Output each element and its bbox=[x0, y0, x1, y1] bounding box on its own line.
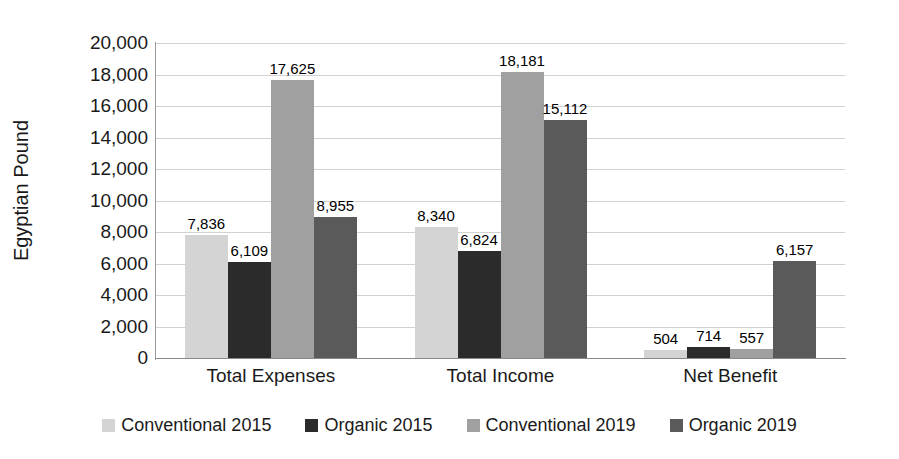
y-axis-tick-label: 6,000 bbox=[44, 254, 148, 273]
x-axis-category-labels: Total ExpensesTotal IncomeNet Benefit bbox=[156, 365, 845, 395]
y-axis-tick-label: 16,000 bbox=[44, 96, 148, 115]
y-axis-tick-label: 14,000 bbox=[44, 128, 148, 147]
bar bbox=[644, 350, 687, 358]
y-axis-tick-label: 8,000 bbox=[44, 222, 148, 241]
legend-swatch-icon bbox=[305, 419, 318, 432]
y-axis-tick-label: 10,000 bbox=[44, 191, 148, 210]
bar-value-label: 8,955 bbox=[303, 198, 368, 213]
y-axis-tick-label: 2,000 bbox=[44, 317, 148, 336]
x-axis-category-label: Total Income bbox=[386, 365, 616, 387]
bar-value-label: 15,112 bbox=[533, 101, 598, 116]
legend-item-label: Organic 2015 bbox=[324, 415, 432, 435]
legend-item[interactable]: Conventional 2019 bbox=[467, 415, 636, 435]
bar-value-label: 8,340 bbox=[404, 208, 469, 223]
legend-item[interactable]: Organic 2015 bbox=[305, 415, 432, 435]
chart-legend: Conventional 2015Organic 2015Conventiona… bbox=[0, 410, 899, 440]
bar-value-label: 6,157 bbox=[762, 242, 827, 257]
bar bbox=[314, 217, 357, 358]
x-axis-category-label: Net Benefit bbox=[615, 365, 845, 387]
y-axis-title-text: Egyptian Pound bbox=[11, 119, 34, 260]
bar bbox=[458, 251, 501, 358]
y-axis-tick-label: 12,000 bbox=[44, 159, 148, 178]
bar bbox=[228, 262, 271, 358]
bar bbox=[271, 80, 314, 358]
bar-chart: Egyptian Pound 20,00018,00016,00014,0001… bbox=[0, 0, 899, 459]
bar-value-label: 18,181 bbox=[490, 53, 555, 68]
bar bbox=[730, 349, 773, 358]
bar bbox=[687, 347, 730, 358]
legend-item-label: Conventional 2015 bbox=[121, 415, 271, 435]
y-axis-tick-labels: 20,00018,00016,00014,00012,00010,0008,00… bbox=[40, 43, 148, 358]
legend-item-label: Organic 2019 bbox=[689, 415, 797, 435]
legend-item[interactable]: Organic 2019 bbox=[670, 415, 797, 435]
legend-item[interactable]: Conventional 2015 bbox=[102, 415, 271, 435]
y-axis-tick-label: 20,000 bbox=[44, 33, 148, 52]
legend-item-label: Conventional 2019 bbox=[486, 415, 636, 435]
y-axis-tick-label: 18,000 bbox=[44, 65, 148, 84]
bar bbox=[773, 261, 816, 358]
x-axis-line bbox=[155, 358, 846, 359]
bars-layer: 7,8366,10917,6258,9558,3406,82418,18115,… bbox=[156, 43, 845, 358]
bar bbox=[544, 120, 587, 358]
legend-swatch-icon bbox=[467, 419, 480, 432]
bar-value-label: 17,625 bbox=[260, 61, 325, 76]
legend-swatch-icon bbox=[102, 419, 115, 432]
bar-value-label: 7,836 bbox=[174, 216, 239, 231]
legend-swatch-icon bbox=[670, 419, 683, 432]
y-axis-title: Egyptian Pound bbox=[0, 0, 44, 380]
y-axis-tick-label: 4,000 bbox=[44, 285, 148, 304]
x-axis-category-label: Total Expenses bbox=[156, 365, 386, 387]
y-axis-tick-label: 0 bbox=[44, 348, 148, 367]
